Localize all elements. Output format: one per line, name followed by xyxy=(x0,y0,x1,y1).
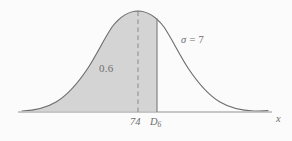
decile-tick-label: D6 xyxy=(150,117,161,128)
shaded-area-region xyxy=(22,11,157,111)
x-axis-label: x xyxy=(276,114,281,125)
sigma-value: = 7 xyxy=(186,34,204,45)
decile-subscript: 6 xyxy=(158,120,162,129)
shaded-area-label: 0.6 xyxy=(99,63,113,74)
normal-distribution-figure: 0.6 σ = 7 74 D6 x xyxy=(0,0,292,141)
decile-symbol: D xyxy=(150,116,158,127)
mean-tick-label: 74 xyxy=(130,117,141,128)
sigma-label: σ = 7 xyxy=(181,35,204,46)
distribution-plot xyxy=(0,0,292,141)
